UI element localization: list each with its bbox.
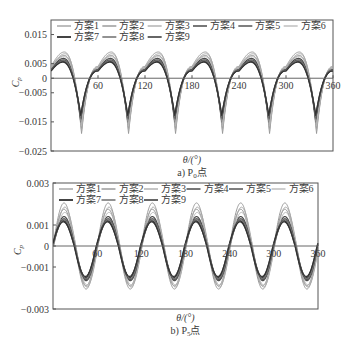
chart-p5: 601201802403003600.0030.0010−0.001−0.003… (12, 178, 326, 339)
y-axis-label: Cp (12, 244, 25, 255)
x-tick-label: 300 (266, 248, 281, 259)
y-tick-label: −0.001 (21, 262, 49, 273)
y-tick-label: −0.015 (19, 116, 47, 127)
svg-text:方案9: 方案9 (161, 193, 186, 205)
svg-text:方案1: 方案1 (76, 182, 101, 194)
x-tick-label: 240 (232, 80, 247, 91)
svg-text:方案2: 方案2 (119, 182, 144, 194)
svg-text:方案9: 方案9 (165, 30, 190, 42)
svg-text:方案3: 方案3 (161, 182, 186, 194)
y-axis-label: Cp (10, 77, 23, 88)
svg-text:方案6: 方案6 (301, 19, 326, 31)
legend-item: 方案2 (102, 19, 144, 31)
x-tick-label: 60 (92, 248, 102, 259)
legend-item: 方案5 (238, 19, 280, 31)
x-tick-label: 120 (134, 248, 149, 259)
svg-text:方案8: 方案8 (119, 30, 144, 42)
y-tick-label: 0 (44, 241, 49, 252)
y-tick-label: −0.003 (21, 304, 49, 315)
y-tick-label: −0.005 (19, 87, 47, 98)
legend-item: 方案9 (148, 30, 190, 42)
svg-text:方案3: 方案3 (165, 19, 190, 31)
x-tick-label: 60 (93, 80, 103, 91)
legend-item: 方案5 (229, 182, 271, 194)
legend-item: 方案4 (187, 182, 229, 194)
x-tick-label: 240 (222, 248, 237, 259)
figure-caption: b) P5点 (171, 325, 201, 338)
figure: 601201802403003600.0150.0050−0.005−0.015… (0, 0, 355, 347)
legend: 方案1方案2方案3方案4方案5方案6方案7方案8方案9 (59, 182, 314, 205)
svg-text:方案5: 方案5 (246, 182, 271, 194)
legend-item: 方案3 (148, 19, 190, 31)
figure-caption: a) P0点 (177, 167, 206, 180)
x-tick-label: 180 (178, 248, 193, 259)
legend-item: 方案9 (144, 193, 186, 205)
x-tick-label: 120 (138, 80, 153, 91)
legend-item: 方案2 (102, 182, 144, 194)
x-axis-label: θ/(°) (176, 312, 195, 324)
legend-item: 方案4 (193, 19, 235, 31)
legend-item: 方案1 (57, 19, 99, 31)
y-tick-label: 0.005 (25, 58, 48, 69)
curves (51, 52, 333, 134)
svg-text:方案7: 方案7 (76, 193, 101, 205)
svg-text:方案8: 方案8 (119, 193, 144, 205)
legend-item: 方案3 (144, 182, 186, 194)
svg-text:方案7: 方案7 (74, 30, 99, 42)
y-tick-label: 0.003 (27, 178, 50, 189)
svg-text:方案5: 方案5 (255, 19, 280, 31)
svg-text:方案4: 方案4 (210, 19, 235, 31)
x-tick-label: 180 (185, 80, 200, 91)
legend-item: 方案7 (57, 30, 99, 42)
legend-item: 方案6 (284, 19, 326, 31)
x-axis-label: θ/(°) (183, 154, 202, 166)
y-tick-label: −0.025 (19, 146, 47, 157)
chart-p0: 601201802403003600.0150.0050−0.005−0.015… (10, 19, 341, 180)
x-tick-label: 300 (279, 80, 294, 91)
y-tick-label: 0 (42, 73, 47, 84)
y-tick-label: 0.015 (25, 29, 48, 40)
svg-text:方案6: 方案6 (289, 182, 314, 194)
y-tick-label: 0.001 (27, 220, 50, 231)
legend-item: 方案8 (102, 30, 144, 42)
legend-item: 方案6 (272, 182, 314, 194)
svg-text:方案1: 方案1 (74, 19, 99, 31)
x-tick-label: 360 (326, 80, 341, 91)
x-tick-label: 360 (311, 248, 326, 259)
svg-text:方案2: 方案2 (119, 19, 144, 31)
svg-text:方案4: 方案4 (204, 182, 229, 194)
legend: 方案1方案2方案3方案4方案5方案6方案7方案8方案9 (57, 19, 326, 42)
legend-item: 方案1 (59, 182, 101, 194)
